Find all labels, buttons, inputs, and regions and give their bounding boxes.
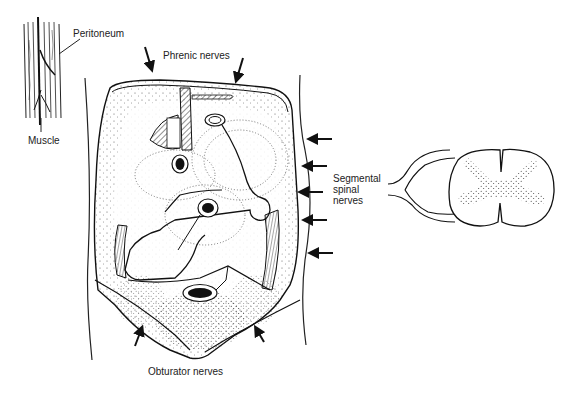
segmental-nerves-label-line2: spinal (333, 184, 359, 195)
abdominal-wall-inset (24, 17, 80, 132)
diagram-canvas (0, 0, 577, 395)
segmental-arrows (303, 139, 333, 253)
spinal-cord-section (388, 149, 554, 226)
muscle-label: Muscle (28, 135, 60, 146)
phrenic-nerves-label: Phrenic nerves (163, 50, 230, 61)
obturator-nerves-label: Obturator nerves (148, 366, 223, 377)
segmental-nerves-label-line3: nerves (333, 195, 363, 206)
abdomen-diagram (85, 75, 310, 360)
segmental-nerves-label-line1: Segmental (333, 173, 381, 184)
peritoneum-label: Peritoneum (73, 28, 124, 39)
